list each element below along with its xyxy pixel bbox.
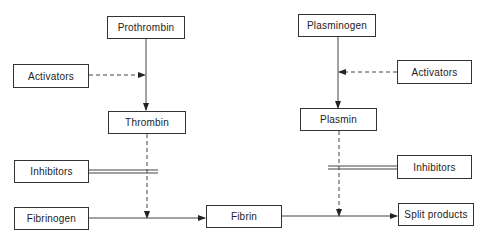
node-fibrin: Fibrin: [206, 205, 282, 228]
node-plasmin: Plasmin: [300, 108, 377, 131]
node-activators-left: Activators: [13, 64, 89, 88]
node-split-products: Split products: [398, 203, 474, 226]
node-fibrinogen: Fibrinogen: [14, 207, 89, 230]
node-activators-right: Activators: [397, 60, 472, 84]
connector-lines: [0, 0, 484, 237]
node-inhibitors-right: Inhibitors: [397, 155, 472, 179]
node-thrombin: Thrombin: [108, 111, 186, 134]
node-inhibitors-left: Inhibitors: [14, 160, 89, 183]
node-prothrombin: Prothrombin: [107, 16, 185, 39]
node-plasminogen: Plasminogen: [298, 14, 376, 37]
